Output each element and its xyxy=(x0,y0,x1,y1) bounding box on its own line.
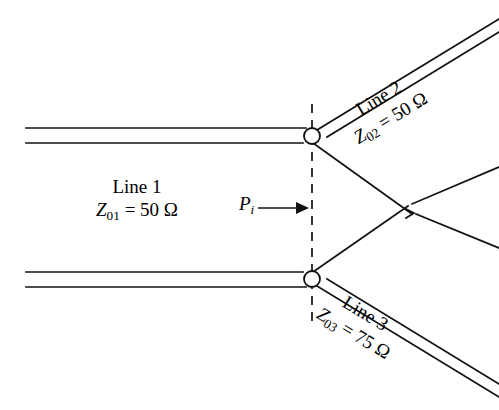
junction-node-lower xyxy=(304,271,320,287)
incident-power-subscript: i xyxy=(251,202,255,217)
line3-inner-conductor xyxy=(313,206,408,272)
transmission-line-junction-figure: Line 1 Z01 = 50 Ω Pi Line 2 Z02 = 50 Ω L… xyxy=(0,0,499,410)
line3-inner-conductor-continuation xyxy=(412,167,499,204)
line2-inner-conductor-continuation xyxy=(416,214,499,248)
junction-node-upper xyxy=(304,128,320,144)
line1-impedance-symbol: Z xyxy=(96,199,107,220)
line1-label-group: Line 1 Z01 = 50 Ω xyxy=(96,176,178,224)
incident-power-arrow-head xyxy=(296,202,309,214)
line1-impedance-unit: Ω xyxy=(164,199,178,220)
line1-name: Line 1 xyxy=(96,176,178,198)
incident-power-label: Pi xyxy=(239,193,254,217)
line2-inner-conductor xyxy=(313,143,412,214)
line1-impedance-subscript: 01 xyxy=(107,208,120,223)
incident-power-symbol: P xyxy=(239,193,251,214)
line1-impedance-equals: = xyxy=(120,199,140,220)
line1-impedance-value: 50 xyxy=(140,199,159,220)
line1-impedance: Z01 = 50 Ω xyxy=(96,199,178,223)
